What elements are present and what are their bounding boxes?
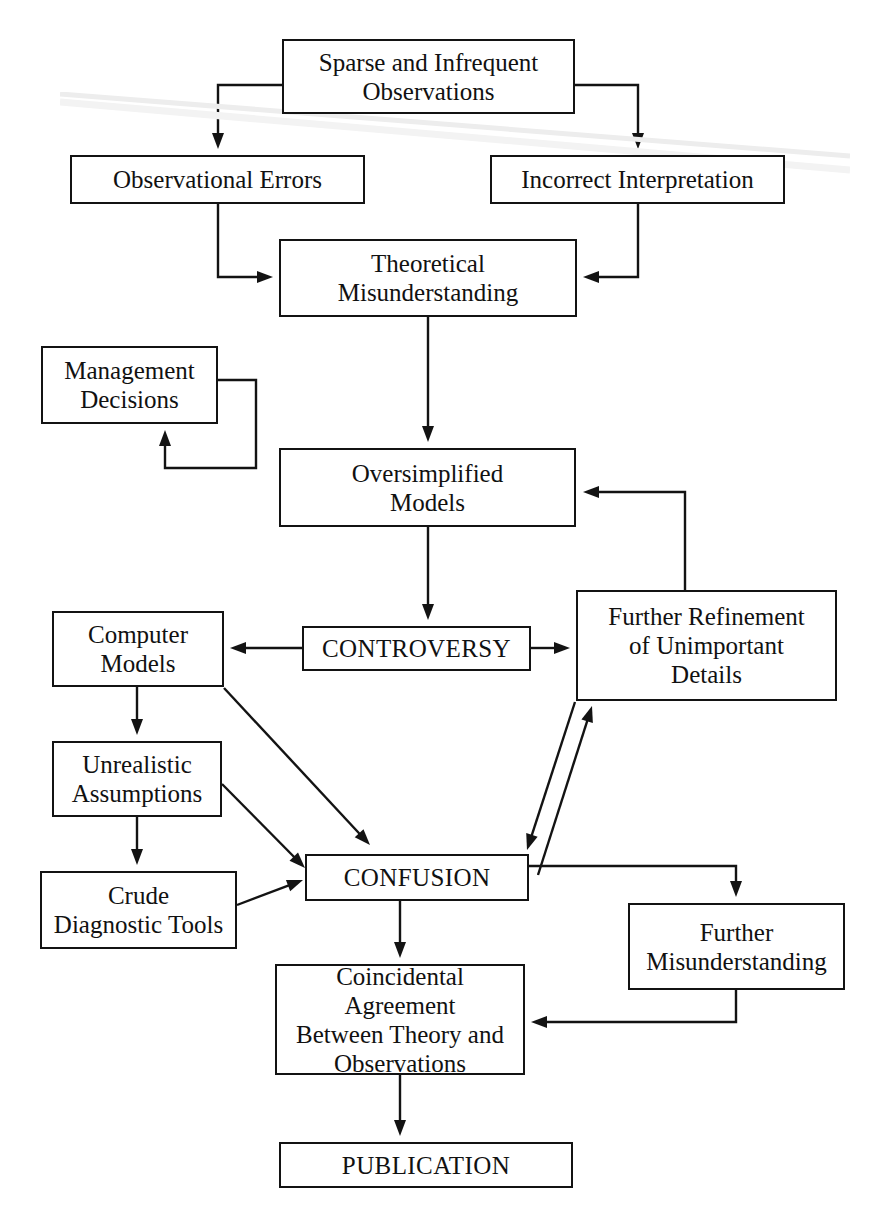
node-label-sparse: Sparse and Infrequent Observations	[319, 48, 538, 106]
node-further_mis: Further Misunderstanding	[628, 903, 845, 990]
node-controversy: CONTROVERSY	[302, 626, 531, 671]
node-computer: Computer Models	[52, 611, 224, 687]
node-management: Management Decisions	[41, 346, 218, 424]
edge-unrealistic-to-crude	[131, 817, 143, 865]
node-label-theoretical: Theoretical Misunderstanding	[338, 249, 519, 307]
edge-coincidental-to-publication	[394, 1075, 406, 1136]
node-label-incorrect: Incorrect Interpretation	[521, 165, 754, 194]
node-label-coincidental: Coincidental Agreement Between Theory an…	[283, 962, 517, 1078]
edge-sparse-to-incorrect	[575, 85, 644, 149]
node-label-publication: PUBLICATION	[342, 1151, 510, 1180]
node-label-computer: Computer Models	[88, 620, 188, 678]
node-label-further_mis: Further Misunderstanding	[646, 918, 827, 976]
node-sparse: Sparse and Infrequent Observations	[282, 39, 575, 114]
node-theoretical: Theoretical Misunderstanding	[279, 239, 577, 317]
node-label-oversimplified: Oversimplified Models	[352, 459, 503, 517]
node-label-refinement: Further Refinement of Unimportant Detail…	[608, 602, 804, 689]
node-obs_errors: Observational Errors	[70, 155, 365, 204]
node-label-management: Management Decisions	[64, 356, 195, 414]
edge-further_mis-to-coincidental	[531, 990, 736, 1028]
edge-refinement-to-oversimplified	[583, 486, 685, 590]
node-label-crude: Crude Diagnostic Tools	[54, 881, 223, 939]
edge-crude-to-confusion	[237, 880, 303, 905]
node-label-obs_errors: Observational Errors	[113, 165, 322, 194]
edge-controversy-to-refinement	[531, 642, 570, 654]
node-publication: PUBLICATION	[279, 1142, 573, 1188]
edge-oversimplified-to-controversy	[422, 527, 434, 620]
edge-incorrect-to-theoretical	[583, 204, 638, 283]
edge-computer-to-confusion	[224, 688, 370, 845]
edge-controversy-to-computer	[230, 642, 302, 654]
edge-obs_errors-to-theoretical	[218, 204, 273, 283]
node-label-controversy: CONTROVERSY	[322, 634, 511, 663]
node-coincidental: Coincidental Agreement Between Theory an…	[275, 964, 525, 1075]
edge-refinement-to-confusion	[526, 702, 575, 850]
node-label-confusion: CONFUSION	[344, 863, 491, 892]
node-refinement: Further Refinement of Unimportant Detail…	[576, 590, 837, 701]
node-label-unrealistic: Unrealistic Assumptions	[72, 750, 203, 808]
edge-confusion-to-refinement	[538, 706, 593, 875]
edge-confusion-to-coincidental	[394, 901, 406, 958]
edge-unrealistic-to-confusion	[222, 784, 305, 868]
flowchart-canvas: Sparse and Infrequent ObservationsObserv…	[0, 0, 875, 1226]
edge-sparse-to-obs_errors	[212, 85, 282, 149]
node-incorrect: Incorrect Interpretation	[490, 155, 785, 204]
edge-confusion-to-further_mis	[529, 866, 742, 897]
node-oversimplified: Oversimplified Models	[279, 448, 576, 527]
edge-theoretical-to-oversimplified	[422, 317, 434, 442]
node-unrealistic: Unrealistic Assumptions	[52, 741, 222, 817]
edge-computer-to-unrealistic	[131, 687, 143, 735]
node-confusion: CONFUSION	[305, 854, 529, 901]
node-crude: Crude Diagnostic Tools	[40, 871, 237, 949]
